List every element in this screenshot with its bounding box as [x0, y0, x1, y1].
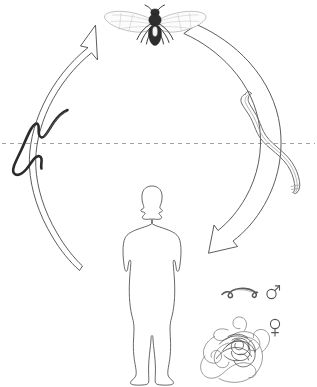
diagram-canvas: Parasite life cycle diagram: [0, 0, 317, 387]
fly-icon: [104, 5, 206, 46]
arrow-left-up-to-fly: [29, 25, 97, 270]
larva-right-grey-worm: [241, 91, 300, 193]
larva-left-dark-worm: [13, 110, 67, 175]
mars-male-icon: [267, 286, 280, 299]
adult-female-worm: [201, 317, 270, 382]
venus-female-icon: [270, 319, 279, 336]
life-cycle-diagram: Parasite life cycle diagram: [0, 0, 317, 387]
human-host-silhouette: [123, 186, 181, 385]
adult-male-worm: [222, 288, 258, 297]
arrow-right-down-to-human: [184, 25, 281, 254]
